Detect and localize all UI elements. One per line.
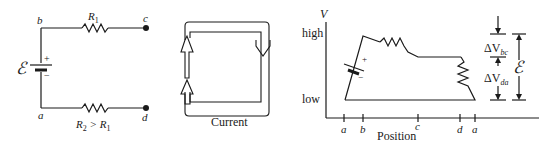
- delta-v-bc-label: ΔVbc: [484, 41, 508, 57]
- x-axis-label: Position: [377, 129, 416, 143]
- y-high-label: high: [302, 26, 323, 40]
- battery-plus: +: [44, 53, 50, 64]
- battery-minus: −: [44, 70, 50, 81]
- r1-label: R1: [87, 10, 99, 25]
- x-tick-a: a: [341, 123, 347, 135]
- y-low-label: low: [302, 92, 320, 106]
- r2-label: R2 > R1: [75, 118, 110, 133]
- x-tick-d: d: [457, 123, 463, 135]
- node-c-label: c: [143, 12, 148, 24]
- circuit-diagram: [30, 24, 146, 112]
- current-flow-diagram: [181, 22, 270, 116]
- node-a-label: a: [38, 109, 44, 121]
- emf-label: ℰ: [16, 59, 28, 78]
- graph-resistor-r1: [380, 38, 461, 57]
- y-axis-label: V: [320, 7, 329, 21]
- delta-v-da-label: ΔVda: [484, 71, 508, 87]
- x-tick-a-end: a: [472, 123, 478, 135]
- graph-emf-label: ℰ: [513, 58, 525, 77]
- potential-graph: [326, 16, 539, 122]
- node-d-label: d: [142, 111, 148, 123]
- current-caption: Current: [211, 115, 248, 129]
- resistor-r2: [82, 104, 108, 112]
- graph-battery-minus: −: [358, 72, 363, 82]
- x-tick-b: b: [360, 123, 366, 135]
- node-c-dot: [143, 25, 149, 31]
- node-b-label: b: [37, 14, 43, 26]
- graph-battery-plus: +: [362, 54, 367, 64]
- circuit-figure: b a c d ℰ + − R1 R2 > R1 Current: [0, 0, 549, 148]
- resistor-r1: [82, 24, 108, 32]
